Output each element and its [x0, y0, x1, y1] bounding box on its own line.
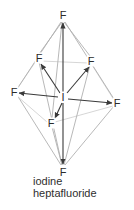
top-apex-edges: [17, 22, 114, 118]
edge-F6-F7: [55, 106, 113, 122]
edge-F2-F6: [65, 106, 114, 165]
bond-I-F6-right: [68, 99, 112, 103]
atom-label-F-left: F: [10, 87, 19, 98]
edge-F1-F7: [52, 22, 62, 118]
bond-I-F7-front: [55, 103, 62, 118]
atom-label-I-center: I: [60, 92, 65, 103]
atom-label-F-upper-left: F: [35, 53, 44, 64]
edge-F2-F3: [39, 62, 62, 165]
atom-label-F-right: F: [113, 98, 122, 109]
bond-I-F5-left: [19, 93, 58, 97]
caption-line-2: heptafluoride: [33, 187, 97, 199]
figure-canvas: F F F F F F F I iodine heptafluoride: [0, 0, 134, 210]
atom-label-F-upper-right: F: [87, 56, 96, 67]
atom-label-F-axial-top: F: [59, 10, 68, 21]
atom-label-F-front: F: [47, 118, 56, 129]
caption-line-1: iodine: [33, 175, 62, 187]
edge-F3-F4: [41, 61, 88, 63]
